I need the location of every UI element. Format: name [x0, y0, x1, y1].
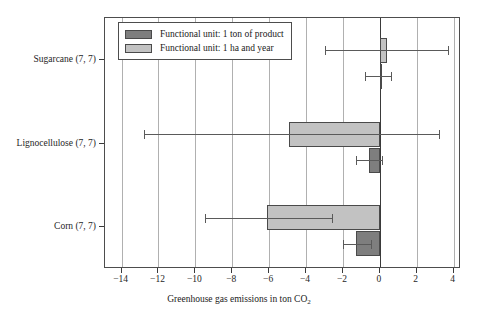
chart-legend: Functional unit: 1 ton of product Functi…	[118, 22, 292, 60]
x-axis-tick-label: −10	[174, 274, 214, 284]
x-axis-tick-label: −12	[137, 274, 177, 284]
error-bar-cap	[439, 130, 440, 139]
y-axis-tick	[99, 143, 104, 144]
error-bar-line	[343, 244, 371, 245]
x-axis-tick	[416, 268, 417, 273]
gridline	[417, 18, 418, 267]
error-bar-cap	[325, 46, 326, 55]
error-bar-line	[144, 134, 439, 135]
x-axis-tick	[157, 268, 158, 273]
x-axis-tick	[379, 268, 380, 273]
legend-item: Functional unit: 1 ton of product	[125, 27, 284, 41]
x-axis-tick-label: −14	[101, 274, 141, 284]
x-axis-tick	[305, 268, 306, 273]
gridline	[454, 18, 455, 267]
y-axis-tick-label: Sugarcane (7, 7)	[33, 54, 96, 64]
y-axis-tick-label: Lignocellulose (7, 7)	[17, 138, 96, 148]
x-axis-tick	[268, 268, 269, 273]
x-axis-title: Greenhouse gas emissions in ton CO2	[0, 294, 478, 306]
y-axis-tick	[99, 59, 104, 60]
legend-swatch-dark-icon	[125, 30, 152, 39]
x-axis-tick-label: −4	[285, 274, 325, 284]
legend-item-label: Functional unit: 1 ha and year	[160, 43, 274, 53]
x-axis-tick-label: −6	[248, 274, 288, 284]
x-axis-tick	[194, 268, 195, 273]
x-axis-title-text: Greenhouse gas emissions in ton CO	[167, 294, 307, 304]
legend-swatch-light-icon	[125, 44, 152, 53]
error-bar-cap	[448, 46, 449, 55]
x-axis-tick	[453, 268, 454, 273]
x-axis-tick-label: 4	[433, 274, 473, 284]
error-bar-cap	[144, 130, 145, 139]
error-bar-cap	[365, 72, 366, 81]
error-bar-cap	[382, 156, 383, 165]
legend-item-label: Functional unit: 1 ton of product	[160, 29, 284, 39]
error-bar-cap	[356, 156, 357, 165]
x-axis-title-subscript: 2	[307, 298, 311, 306]
x-axis-tick-label: −2	[322, 274, 362, 284]
error-bar-cap	[343, 240, 344, 249]
error-bar-line	[325, 50, 449, 51]
x-axis-tick-label: −8	[211, 274, 251, 284]
error-bar-cap	[332, 214, 333, 223]
y-axis-tick	[99, 226, 104, 227]
x-axis-tick	[121, 268, 122, 273]
legend-item: Functional unit: 1 ha and year	[125, 41, 284, 55]
error-bar-cap	[205, 214, 206, 223]
error-bar-cap	[371, 240, 372, 249]
chart-figure: −14−12−10−8−6−4−2024Sugarcane (7, 7)Lign…	[0, 0, 478, 319]
error-bar-cap	[391, 72, 392, 81]
error-bar-line	[365, 76, 391, 77]
error-bar-line	[205, 218, 332, 219]
x-axis-tick-label: 0	[359, 274, 399, 284]
y-axis-tick-label: Corn (7, 7)	[54, 221, 96, 231]
x-axis-tick	[342, 268, 343, 273]
error-bar-line	[356, 160, 382, 161]
x-axis-tick	[231, 268, 232, 273]
x-axis-tick-label: 2	[396, 274, 436, 284]
